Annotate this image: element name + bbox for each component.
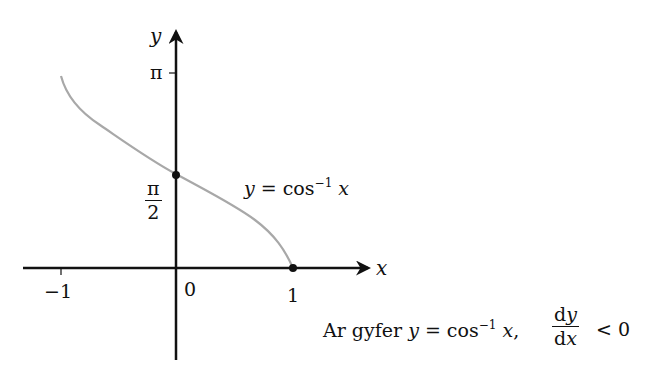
y-axis-label: y	[150, 24, 161, 48]
curve-label: y = cos−1 x	[244, 176, 349, 199]
tick-label-pi: π	[150, 61, 163, 83]
curve-label-y: y	[244, 177, 255, 199]
derivative-numerator: dy	[552, 305, 579, 327]
point-pi-half	[172, 171, 180, 179]
pi-half-denominator: 2	[147, 201, 159, 222]
tick-label-0: 0	[184, 278, 196, 300]
point-one-zero	[289, 264, 297, 272]
x-axis-label: x	[376, 256, 387, 280]
pi-half-numerator: π	[145, 179, 162, 201]
derivative-fraction: dy dx	[552, 305, 579, 348]
curve-label-sup: −1	[315, 176, 333, 190]
caption-sup: −1	[479, 318, 497, 332]
tick-label-1: 1	[287, 284, 299, 306]
caption-y: y	[408, 319, 419, 341]
dy-y: y	[566, 303, 577, 325]
derivative-relation: < 0	[596, 318, 630, 340]
dy-d: d	[554, 303, 566, 325]
dx-x: x	[566, 327, 577, 349]
caption-eq: = cos	[419, 319, 479, 341]
caption-x: x	[502, 319, 513, 341]
caption-text: Ar gyfer y = cos−1 x,	[323, 318, 519, 341]
derivative-denominator: dx	[554, 327, 577, 348]
tick-label-neg1: −1	[44, 280, 72, 302]
curve-label-x: x	[338, 177, 349, 199]
caption-comma: ,	[513, 319, 519, 341]
caption-prefix: Ar gyfer	[323, 319, 408, 341]
dx-d: d	[554, 327, 566, 349]
tick-label-pi-half: π 2	[145, 179, 162, 222]
curve-label-eq: = cos	[255, 177, 315, 199]
